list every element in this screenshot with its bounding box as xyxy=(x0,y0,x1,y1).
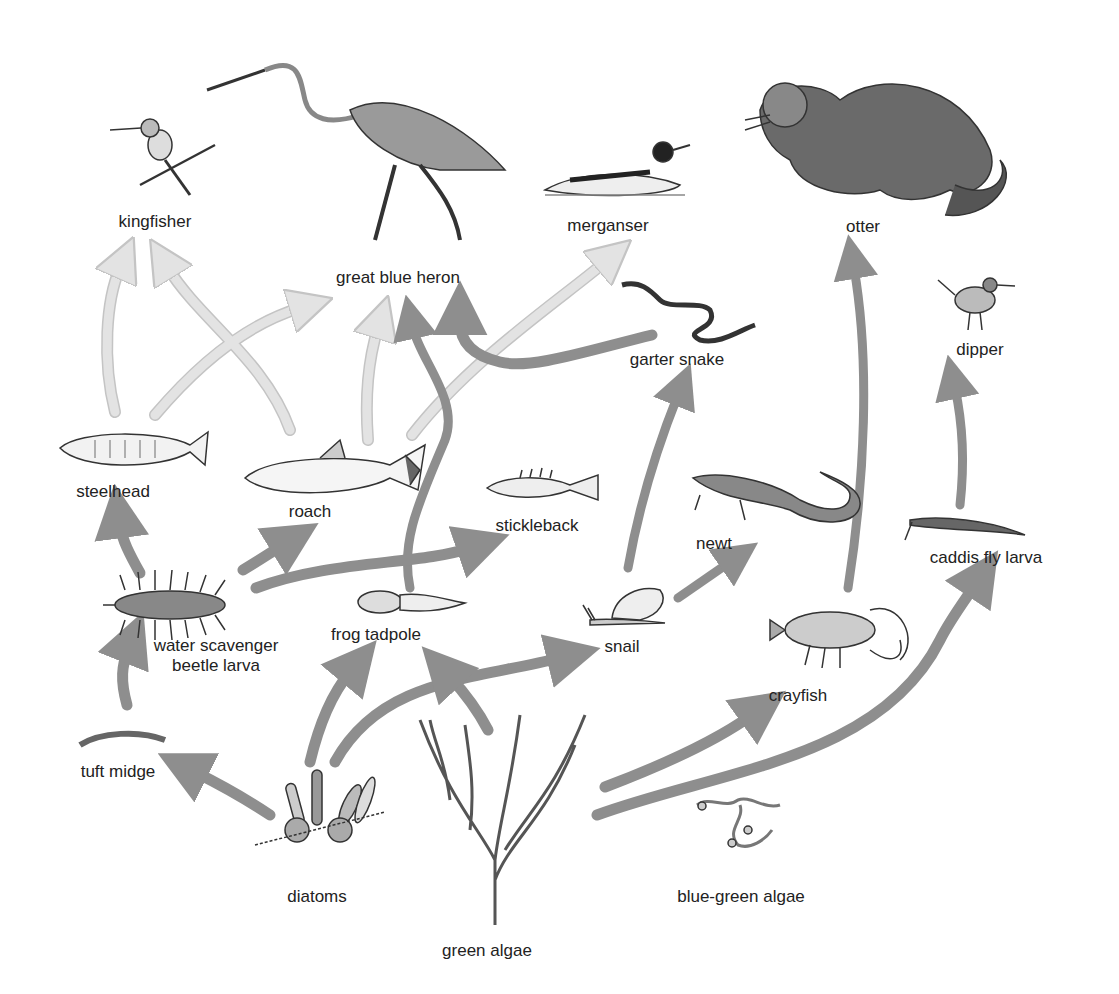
label-blue-green-algae: blue-green algae xyxy=(677,887,805,907)
snail-icon xyxy=(583,589,665,625)
arrow-beetle-stickleback xyxy=(256,548,470,588)
otter-icon xyxy=(745,83,1006,215)
label-tuft-midge: tuft midge xyxy=(81,762,156,782)
diatoms-icon xyxy=(255,770,385,845)
arrow-caddis-dipper xyxy=(955,388,962,505)
caddis-fly-larva-icon xyxy=(905,518,1025,540)
arrow-beetle-steelhead xyxy=(120,525,140,573)
label-merganser: merganser xyxy=(567,216,648,236)
label-newt: newt xyxy=(696,534,732,554)
stickleback-icon xyxy=(487,468,598,500)
label-great-blue-heron: great blue heron xyxy=(336,268,460,288)
food-web-diagram: kingfisher great blue heron merganser ot… xyxy=(0,0,1119,994)
label-frog-tadpole: frog tadpole xyxy=(331,625,421,645)
arrow-snail-snake xyxy=(628,395,678,568)
label-garter-snake: garter snake xyxy=(630,350,725,370)
label-line-2: beetle larva xyxy=(154,656,279,676)
label-dipper: dipper xyxy=(956,340,1003,360)
newt-icon xyxy=(693,472,860,522)
green-algae-icon xyxy=(420,715,585,925)
roach-icon xyxy=(245,440,425,493)
label-kingfisher: kingfisher xyxy=(119,212,192,232)
arrows-dark xyxy=(120,268,975,815)
heron-icon xyxy=(207,65,505,240)
arrows-light xyxy=(107,262,605,440)
arrow-snail-newt xyxy=(678,562,730,598)
label-roach: roach xyxy=(289,502,332,522)
arrow-beetle-roach xyxy=(243,545,283,570)
blue-green-algae-icon xyxy=(697,799,780,847)
label-steelhead: steelhead xyxy=(76,482,150,502)
label-stickleback: stickleback xyxy=(495,516,578,536)
label-otter: otter xyxy=(846,217,880,237)
crayfish-icon xyxy=(770,608,908,668)
illustrations xyxy=(60,65,1025,925)
steelhead-icon xyxy=(60,432,208,465)
kingfisher-icon xyxy=(110,119,215,195)
label-caddis-fly-larva: caddis fly larva xyxy=(930,548,1042,568)
label-diatoms: diatoms xyxy=(287,887,347,907)
arrow-crayfish-otter xyxy=(848,268,864,588)
arrow-midge-beetle xyxy=(123,650,128,705)
label-snail: snail xyxy=(605,637,640,657)
label-line-1: water scavenger xyxy=(154,636,279,656)
dipper-icon xyxy=(938,278,1015,330)
arrow-snake-heron xyxy=(460,322,652,364)
merganser-icon xyxy=(545,142,690,195)
label-crayfish: crayfish xyxy=(769,686,828,706)
food-web-arrows xyxy=(0,0,1119,994)
label-water-scavenger-beetle-larva: water scavenger beetle larva xyxy=(154,636,279,676)
tuft-midge-icon xyxy=(80,734,165,745)
frog-tadpole-icon xyxy=(358,591,465,613)
beetle-larva-icon xyxy=(103,570,225,640)
arrow-greenalgae-tadpole xyxy=(450,677,488,730)
label-green-algae: green algae xyxy=(442,941,532,961)
arrow-diatoms-midge xyxy=(195,772,270,815)
